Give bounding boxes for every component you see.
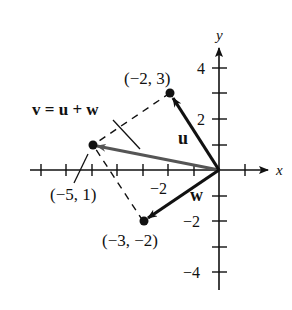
point-label-v-tip: (−5, 1)	[50, 185, 96, 204]
y-tick-label-neg2: −2	[183, 213, 200, 230]
point-label-leader-line	[74, 154, 88, 183]
x-axis-label: x	[275, 162, 283, 178]
point-label-w-tip: (−3, −2)	[102, 231, 158, 250]
diagram-canvas: y x 4 2 −2 −4 −2 (−2, 3) (−5, 1) (−3, −2…	[0, 0, 292, 310]
dashed-segment-w-to-v	[93, 145, 143, 221]
y-axis-label: y	[214, 27, 223, 43]
point-w-tip	[140, 217, 149, 226]
equation-label: v = u + w	[32, 100, 99, 119]
y-tick-label-2: 2	[197, 111, 205, 128]
point-v-tip	[89, 141, 98, 150]
vector-v	[97, 146, 219, 170]
vector-label-w: w	[190, 185, 203, 205]
y-tick-label-neg4: −4	[183, 264, 200, 281]
vector-label-u: u	[178, 128, 188, 148]
x-tick-label-neg2: −2	[150, 180, 167, 197]
equation-leader-line	[113, 120, 140, 149]
y-tick-label-4: 4	[197, 60, 205, 77]
point-u-tip	[166, 89, 175, 98]
point-label-u-tip: (−2, 3)	[124, 69, 170, 88]
vector-diagram: y x 4 2 −2 −4 −2 (−2, 3) (−5, 1) (−3, −2…	[0, 0, 292, 310]
dashed-segment-u-to-v	[93, 93, 170, 145]
